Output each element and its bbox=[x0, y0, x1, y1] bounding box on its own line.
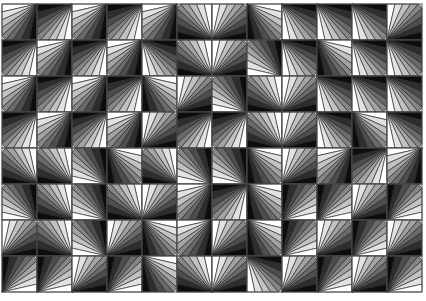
fan-tile bbox=[2, 40, 37, 76]
fan-tile bbox=[177, 184, 212, 220]
fan-tile bbox=[142, 112, 177, 148]
fan-tile bbox=[72, 40, 107, 76]
fan-tile bbox=[142, 4, 177, 40]
fan-tile bbox=[107, 220, 142, 256]
fan-tile bbox=[37, 112, 72, 148]
fan-tile bbox=[212, 112, 247, 148]
fan-tile bbox=[37, 40, 72, 76]
fan-tile bbox=[282, 76, 317, 112]
tile-grid bbox=[0, 0, 426, 301]
fan-tile bbox=[72, 148, 107, 184]
fan-tile bbox=[247, 256, 282, 292]
fan-tile bbox=[247, 40, 282, 76]
fan-tile bbox=[352, 112, 387, 148]
fan-tile bbox=[2, 256, 37, 292]
fan-tile bbox=[247, 148, 282, 184]
fan-tile bbox=[387, 4, 422, 40]
fan-tile bbox=[212, 256, 247, 292]
fan-tile bbox=[212, 76, 247, 112]
op-art-mosaic bbox=[0, 0, 426, 301]
fan-tile bbox=[387, 220, 422, 256]
fan-tile bbox=[142, 184, 177, 220]
fan-tile bbox=[317, 184, 352, 220]
fan-tile bbox=[317, 4, 352, 40]
fan-tile bbox=[2, 148, 37, 184]
fan-tile bbox=[282, 112, 317, 148]
fan-tile bbox=[352, 220, 387, 256]
fan-tile bbox=[142, 220, 177, 256]
fan-tile bbox=[317, 148, 352, 184]
fan-tile bbox=[212, 184, 247, 220]
fan-tile bbox=[247, 112, 282, 148]
fan-tile bbox=[107, 184, 142, 220]
fan-tile bbox=[317, 256, 352, 292]
fan-tile bbox=[212, 148, 247, 184]
fan-tile bbox=[352, 148, 387, 184]
fan-tile bbox=[247, 4, 282, 40]
fan-tile bbox=[282, 148, 317, 184]
fan-tile bbox=[107, 76, 142, 112]
fan-tile bbox=[282, 40, 317, 76]
fan-tile bbox=[317, 76, 352, 112]
fan-tile bbox=[282, 4, 317, 40]
fan-tile bbox=[72, 112, 107, 148]
fan-tile bbox=[282, 220, 317, 256]
fan-tile bbox=[2, 220, 37, 256]
fan-tile bbox=[282, 256, 317, 292]
fan-tile bbox=[107, 40, 142, 76]
fan-tile bbox=[37, 76, 72, 112]
fan-tile bbox=[387, 148, 422, 184]
fan-tile bbox=[72, 76, 107, 112]
fan-tile bbox=[247, 184, 282, 220]
fan-tile bbox=[142, 76, 177, 112]
fan-tile bbox=[2, 184, 37, 220]
fan-tile bbox=[352, 76, 387, 112]
fan-tile bbox=[212, 40, 247, 76]
fan-tile bbox=[72, 220, 107, 256]
fan-tile bbox=[107, 256, 142, 292]
fan-tile bbox=[37, 256, 72, 292]
fan-tile bbox=[37, 148, 72, 184]
fan-tile bbox=[142, 40, 177, 76]
fan-tile bbox=[317, 220, 352, 256]
fan-tile bbox=[352, 184, 387, 220]
fan-tile bbox=[37, 4, 72, 40]
fan-tile bbox=[317, 112, 352, 148]
fan-tile bbox=[107, 148, 142, 184]
fan-tile bbox=[247, 220, 282, 256]
fan-tile bbox=[177, 4, 212, 40]
fan-tile bbox=[2, 112, 37, 148]
fan-tile bbox=[387, 40, 422, 76]
fan-tile bbox=[352, 4, 387, 40]
fan-tile bbox=[282, 184, 317, 220]
fan-tile bbox=[142, 148, 177, 184]
fan-tile bbox=[317, 40, 352, 76]
fan-tile bbox=[37, 220, 72, 256]
fan-tile bbox=[142, 256, 177, 292]
fan-tile bbox=[2, 4, 37, 40]
fan-tile bbox=[387, 112, 422, 148]
fan-tile bbox=[107, 4, 142, 40]
fan-tile bbox=[177, 76, 212, 112]
fan-tile bbox=[37, 184, 72, 220]
fan-tile bbox=[177, 256, 212, 292]
fan-tile bbox=[177, 148, 212, 184]
fan-tile bbox=[352, 40, 387, 76]
fan-tile bbox=[72, 4, 107, 40]
fan-tile bbox=[387, 76, 422, 112]
fan-tile bbox=[212, 220, 247, 256]
fan-tile bbox=[387, 256, 422, 292]
fan-tile bbox=[352, 256, 387, 292]
fan-tile bbox=[177, 220, 212, 256]
fan-tile bbox=[247, 76, 282, 112]
fan-tile bbox=[177, 40, 212, 76]
fan-tile bbox=[2, 76, 37, 112]
fan-tile bbox=[72, 184, 107, 220]
fan-tile bbox=[387, 184, 422, 220]
fan-tile bbox=[107, 112, 142, 148]
fan-tile bbox=[177, 112, 212, 148]
fan-tile bbox=[212, 4, 247, 40]
fan-tile bbox=[72, 256, 107, 292]
